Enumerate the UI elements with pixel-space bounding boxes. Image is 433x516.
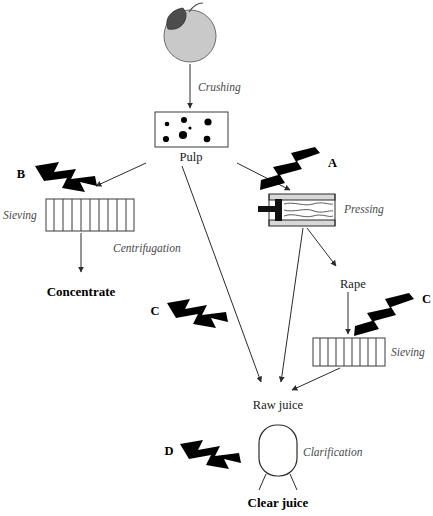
marker-c-right: C [422, 292, 431, 306]
marker-d: D [164, 444, 173, 458]
label-clarification: Clarification [303, 446, 363, 459]
bolt-a-icon [260, 147, 320, 190]
right-sieve-icon [313, 338, 385, 366]
left-sieve-icon [46, 199, 134, 231]
process-flow-svg: Crushing Pulp B [0, 0, 433, 516]
label-centrifugation: Centrifugation [113, 242, 181, 255]
bolt-c-right-icon [354, 293, 414, 336]
clarification-vessel-icon [259, 425, 297, 490]
pulp-box [155, 112, 228, 147]
apple-icon [164, 3, 216, 62]
label-sieving-left: Sieving [3, 209, 37, 222]
label-sieving-right: Sieving [391, 346, 425, 359]
arrow-right-sieve-to-raw-juice [292, 368, 340, 390]
label-rape: Rape [340, 277, 366, 291]
label-concentrate: Concentrate [47, 284, 116, 299]
marker-a: A [328, 156, 337, 170]
label-pulp: Pulp [180, 150, 203, 164]
label-raw-juice: Raw juice [253, 398, 304, 412]
arrow-press-to-rape [307, 228, 336, 266]
bolt-d-icon [180, 440, 241, 469]
arrow-pulp-to-raw-juice [182, 166, 261, 382]
bolt-b-icon [35, 162, 97, 192]
bolt-c-left-icon [167, 299, 228, 328]
marker-c-left: C [150, 304, 159, 318]
arrow-pulp-to-left-sieve [96, 163, 146, 186]
arrow-press-to-raw-juice [281, 228, 303, 382]
label-clear-juice: Clear juice [248, 495, 309, 510]
label-crushing: Crushing [198, 81, 241, 94]
press-icon [258, 194, 335, 226]
marker-b: B [17, 167, 25, 181]
label-pressing: Pressing [343, 203, 384, 216]
flow-diagram-canvas: Crushing Pulp B [0, 0, 433, 516]
